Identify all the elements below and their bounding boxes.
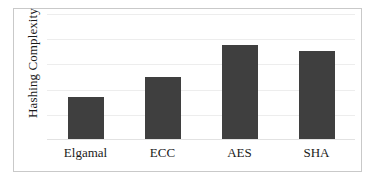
x-tick-slot: Elgamal	[47, 143, 124, 161]
x-tick-label-ecc: ECC	[150, 145, 175, 160]
x-tick-label-aes: AES	[227, 145, 252, 160]
x-tick-slot: AES	[201, 143, 278, 161]
bar-aes	[222, 45, 258, 140]
x-tick-label-sha: SHA	[303, 145, 329, 160]
bar-elgamal	[68, 97, 104, 140]
bar-chart-figure: Hashing Complexity Elgam	[0, 0, 376, 182]
plot-area	[47, 14, 355, 140]
x-tick-slot: ECC	[124, 143, 201, 161]
bar-series	[47, 14, 355, 140]
x-tick-label-elgamal: Elgamal	[64, 145, 107, 160]
bar-slot	[278, 14, 355, 140]
bar-slot	[47, 14, 124, 140]
x-tick-slot: SHA	[278, 143, 355, 161]
y-axis-title: Hashing Complexity	[25, 4, 41, 122]
bar-sha	[299, 51, 335, 140]
bar-slot	[201, 14, 278, 140]
x-axis-tick-labels: Elgamal ECC AES SHA	[47, 143, 355, 165]
bar-ecc	[145, 77, 181, 140]
x-axis-baseline	[47, 139, 355, 140]
bar-slot	[124, 14, 201, 140]
